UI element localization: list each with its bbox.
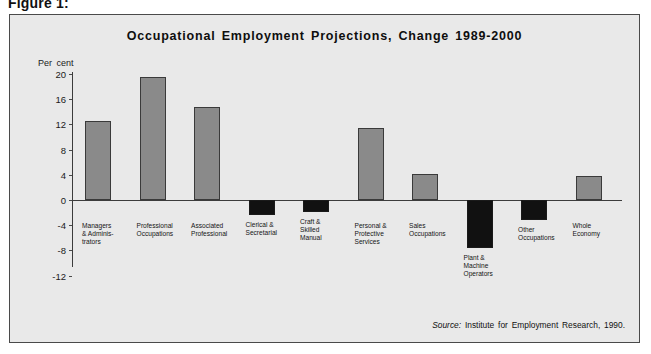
y-tick-label: -12: [40, 270, 66, 281]
bar: [140, 77, 166, 200]
bar: [303, 200, 329, 212]
bar: [194, 107, 220, 200]
y-tick-label: -8: [40, 245, 66, 256]
source-keyword: Source:: [432, 320, 461, 330]
y-tick-label: 8: [40, 144, 66, 155]
category-label: Craft & Skilled Manual: [300, 218, 353, 243]
y-tick-mark: [69, 276, 72, 277]
y-tick-mark: [69, 124, 72, 125]
category-label: Plant & Machine Operators: [464, 254, 517, 279]
chart-panel: Occupational Employment Projections, Cha…: [9, 14, 640, 343]
y-tick-mark: [69, 250, 72, 251]
y-tick-label: 20: [40, 69, 66, 80]
bar: [358, 128, 384, 200]
y-tick-mark: [69, 225, 72, 226]
category-label: Associated Professional: [191, 222, 244, 238]
y-axis-line: [72, 72, 73, 267]
figure-caption: Figure 1:: [8, 0, 69, 11]
bar: [85, 121, 111, 200]
plot-area: 201612840-4-8-12 Managers & Adminis- tra…: [10, 15, 641, 344]
bar: [467, 200, 493, 248]
y-tick-mark: [69, 200, 72, 201]
bar: [249, 200, 275, 215]
bar: [576, 176, 602, 200]
category-label: Other Occupations: [518, 226, 571, 242]
y-tick-mark: [69, 150, 72, 151]
source-note: Source: Institute for Employment Researc…: [432, 320, 625, 330]
category-label: Whole Economy: [573, 222, 626, 238]
y-tick-label: 16: [40, 94, 66, 105]
bar: [521, 200, 547, 220]
y-tick-label: 0: [40, 195, 66, 206]
y-tick-label: 4: [40, 169, 66, 180]
category-label: Managers & Adminis- trators: [82, 222, 135, 247]
category-label: Personal & Protective Services: [355, 222, 408, 247]
y-tick-label: 12: [40, 119, 66, 130]
y-tick-mark: [69, 99, 72, 100]
source-text: Institute for Employment Research, 1990.: [465, 320, 625, 330]
category-label: Sales Occupations: [409, 222, 462, 238]
y-tick-label: -4: [40, 220, 66, 231]
bar: [412, 174, 438, 200]
category-label: Professional Occupations: [137, 222, 190, 238]
y-tick-mark: [69, 175, 72, 176]
category-label: Clerical & Secretarial: [246, 221, 299, 237]
y-tick-mark: [69, 74, 72, 75]
